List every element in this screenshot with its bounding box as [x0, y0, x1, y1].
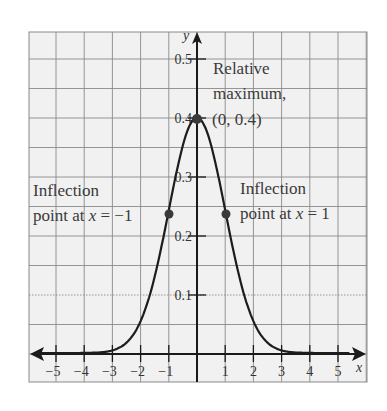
- x-tick-label: 2: [250, 364, 257, 379]
- x-axis-label: x: [355, 360, 363, 375]
- x-tick-label: −3: [102, 364, 117, 379]
- y-axis-label: y: [181, 28, 190, 43]
- annotation-max-line-3: (0, 0.4): [212, 110, 262, 129]
- x-tick-label: −4: [74, 364, 89, 379]
- y-tick-label: 0.5: [175, 52, 193, 67]
- relative-maximum-point: [192, 114, 202, 124]
- annotation-left-line-1: Inflection: [33, 181, 100, 200]
- annotation-right-text: point at: [240, 204, 296, 223]
- x-tick-label: 4: [306, 364, 313, 379]
- x-tick-label: 3: [278, 364, 285, 379]
- x-tick-label: −1: [158, 364, 173, 379]
- inflection-point-left: [165, 210, 174, 219]
- x-tick-label: 1: [222, 364, 229, 379]
- annotation-left-line-2: point at x = −1: [33, 206, 132, 225]
- annotation-left-text: point at: [33, 206, 89, 225]
- annotation-right-line-1: Inflection: [240, 179, 307, 198]
- annotation-max-line-1: Relative: [213, 59, 270, 78]
- x-tick-label: 5: [335, 364, 342, 379]
- inflection-point-right: [222, 210, 231, 219]
- annotation-right-line-2: point at x = 1: [240, 204, 330, 223]
- normal-curve-chart: −5−4−3−2−1123450.10.20.30.40.5 y x Relat…: [0, 0, 387, 411]
- x-tick-label: −2: [130, 364, 145, 379]
- x-tick-label: −5: [46, 364, 61, 379]
- y-tick-label: 0.2: [175, 229, 193, 244]
- annotation-right-value: = 1: [303, 204, 330, 223]
- annotation-max-line-2: maximum,: [213, 84, 286, 103]
- y-tick-label: 0.1: [175, 288, 193, 303]
- annotation-left-value: = −1: [96, 206, 132, 225]
